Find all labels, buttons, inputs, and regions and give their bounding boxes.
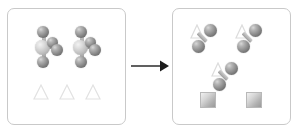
atom (213, 78, 226, 91)
product-square-2 (246, 92, 262, 108)
reaction-diagram (0, 0, 298, 133)
reaction-arrow (130, 58, 170, 74)
atom (75, 26, 87, 38)
atom (51, 44, 63, 56)
product-square-1 (200, 92, 216, 108)
atom (204, 24, 217, 37)
atom (89, 44, 101, 56)
atom (249, 24, 262, 37)
product-pair-1 (190, 23, 230, 59)
atom (75, 56, 87, 68)
reactant-triangle-2 (58, 83, 76, 101)
reactant-box (7, 8, 126, 125)
atom (192, 40, 205, 53)
atom (237, 40, 250, 53)
reactant-molecule-2 (64, 25, 108, 69)
product-box (172, 8, 291, 125)
atom (37, 26, 49, 38)
product-pair-3 (211, 61, 251, 97)
reactant-triangle-1 (32, 83, 50, 101)
product-pair-2 (235, 23, 275, 59)
reactant-triangle-3 (84, 83, 102, 101)
atom (225, 62, 238, 75)
atom (37, 56, 49, 68)
